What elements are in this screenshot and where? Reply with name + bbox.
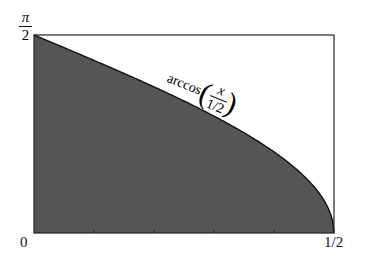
x-tick-label-half: 1/2 (324, 234, 343, 251)
area-under-curve (34, 35, 334, 233)
chart-plot (0, 0, 370, 266)
y-tick-label-zero: 0 (20, 234, 28, 251)
y-tick-label-pi-over-2: π 2 (19, 10, 32, 43)
